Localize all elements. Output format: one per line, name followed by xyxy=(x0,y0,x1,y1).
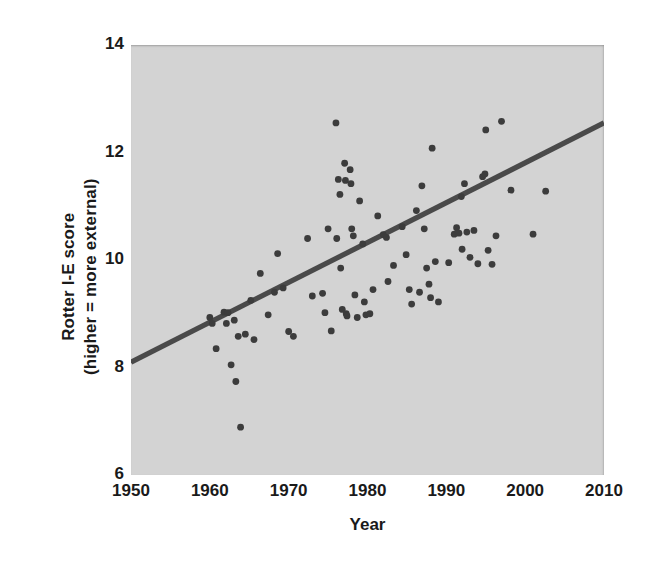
scatter-point xyxy=(265,311,272,318)
scatter-point xyxy=(271,289,278,296)
scatter-point xyxy=(333,120,340,127)
scatter-point xyxy=(237,424,244,431)
scatter-point xyxy=(325,225,332,232)
scatter-point xyxy=(341,160,348,167)
scatter-point xyxy=(385,278,392,285)
scatter-point xyxy=(530,231,537,238)
scatter-point xyxy=(408,301,415,308)
scatter-point xyxy=(280,285,287,292)
x-axis-title: Year xyxy=(131,515,604,535)
scatter-point xyxy=(498,118,505,125)
scatter-point xyxy=(461,180,468,187)
scatter-points-group xyxy=(206,118,549,431)
scatter-point xyxy=(231,317,238,324)
regression-trend-line xyxy=(131,123,604,362)
scatter-point xyxy=(418,182,425,189)
scatter-point xyxy=(359,240,366,247)
scatter-point xyxy=(351,292,358,299)
x-tick-label-2010: 2010 xyxy=(564,481,644,501)
y-axis-tick-labels: 68101214 xyxy=(86,45,124,475)
scatter-point xyxy=(482,171,489,178)
scatter-point xyxy=(429,145,436,152)
scatter-point xyxy=(322,309,329,316)
scatter-point xyxy=(235,333,242,340)
scatter-point xyxy=(206,314,213,321)
scatter-point xyxy=(493,232,500,239)
scatter-point xyxy=(356,197,363,204)
scatter-point xyxy=(354,314,361,321)
x-tick-label-1960: 1960 xyxy=(170,481,250,501)
scatter-point xyxy=(304,235,311,242)
y-axis-title-line-1: Rotter I-E score xyxy=(58,112,80,442)
scatter-point xyxy=(416,289,423,296)
x-tick-label-1980: 1980 xyxy=(328,481,408,501)
scatter-point xyxy=(328,328,335,335)
scatter-point xyxy=(390,262,397,269)
scatter-point xyxy=(350,232,357,239)
y-tick-label-10: 10 xyxy=(84,249,124,269)
scatter-point xyxy=(251,336,258,343)
scatter-point xyxy=(403,251,410,258)
scatter-point xyxy=(482,127,489,134)
scatter-point xyxy=(458,193,465,200)
scatter-point xyxy=(471,227,478,234)
scatter-point xyxy=(213,345,220,352)
x-axis-tick-labels: 1950196019701980199020002010 xyxy=(131,481,604,507)
scatter-point xyxy=(309,293,316,300)
plot-canvas xyxy=(131,45,604,475)
scatter-point xyxy=(374,213,381,220)
scatter-point xyxy=(344,313,351,320)
scatter-point xyxy=(335,176,342,183)
scatter-point xyxy=(423,265,430,272)
y-tick-label-12: 12 xyxy=(84,142,124,162)
scatter-point xyxy=(348,180,355,187)
scatter-point xyxy=(232,378,239,385)
scatter-point xyxy=(463,229,470,236)
scatter-plot-figure: Rotter I-E score (higher = more external… xyxy=(0,0,652,578)
scatter-point xyxy=(399,223,406,230)
scatter-point xyxy=(421,225,428,232)
scatter-point xyxy=(427,294,434,301)
scatter-point xyxy=(337,191,344,198)
scatter-point xyxy=(459,246,466,253)
x-tick-label-1970: 1970 xyxy=(249,481,329,501)
plot-area xyxy=(131,45,604,475)
scatter-point xyxy=(274,250,281,257)
scatter-point xyxy=(467,254,474,261)
scatter-point xyxy=(426,281,433,288)
scatter-point xyxy=(257,270,264,277)
scatter-point xyxy=(347,166,354,173)
scatter-point xyxy=(209,320,216,327)
scatter-point xyxy=(413,207,420,214)
scatter-point xyxy=(366,310,373,317)
scatter-point xyxy=(242,331,249,338)
scatter-point xyxy=(445,259,452,266)
scatter-point xyxy=(348,225,355,232)
x-tick-label-1990: 1990 xyxy=(406,481,486,501)
scatter-point xyxy=(228,361,235,368)
scatter-point xyxy=(489,261,496,268)
y-tick-label-8: 8 xyxy=(84,357,124,377)
scatter-point xyxy=(223,320,230,327)
scatter-point xyxy=(290,333,297,340)
scatter-point xyxy=(474,260,481,267)
scatter-point xyxy=(285,328,292,335)
x-tick-label-1950: 1950 xyxy=(91,481,171,501)
scatter-point xyxy=(456,230,463,237)
scatter-point xyxy=(485,247,492,254)
scatter-point xyxy=(319,290,326,297)
scatter-point xyxy=(432,258,439,265)
scatter-point xyxy=(383,234,390,241)
scatter-point xyxy=(247,297,254,304)
scatter-point xyxy=(406,286,413,293)
y-tick-label-14: 14 xyxy=(84,34,124,54)
scatter-point xyxy=(435,299,442,306)
scatter-point xyxy=(333,235,340,242)
x-tick-label-2000: 2000 xyxy=(485,481,565,501)
scatter-point xyxy=(361,299,368,306)
scatter-point xyxy=(542,188,549,195)
scatter-point xyxy=(370,286,377,293)
scatter-point xyxy=(225,309,232,316)
scatter-point xyxy=(508,187,515,194)
scatter-point xyxy=(337,265,344,272)
